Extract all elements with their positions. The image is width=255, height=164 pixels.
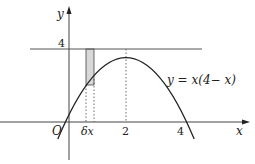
- parabola-diagram: y 4 x O δx 2 4 y = x(4− x): [0, 0, 255, 164]
- x-axis-arrow-icon: [242, 120, 250, 125]
- y-axis-label: y: [56, 7, 64, 21]
- function-label: y = x(4− x): [166, 73, 236, 87]
- y-axis-arrow-icon: [67, 6, 72, 14]
- x-tick-2: 2: [122, 125, 129, 138]
- x-tick-4: 4: [177, 125, 184, 138]
- origin-label: O: [52, 124, 62, 138]
- x-axis-label: x: [236, 124, 243, 138]
- y-tick-4: 4: [58, 37, 65, 50]
- diagram-canvas: y 4 x O δx 2 4 y = x(4− x): [0, 0, 255, 164]
- x-tick-dx: δx: [81, 125, 95, 138]
